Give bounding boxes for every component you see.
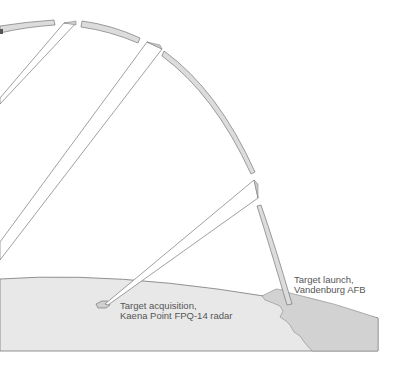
label-target-launch-line2: Vandenburg AFB	[294, 285, 366, 295]
trajectory-segment-2	[81, 21, 140, 43]
label-target-acquisition-line2: Kaena Point FPQ-14 radar	[120, 311, 232, 321]
trajectory-segment-3	[162, 51, 255, 174]
radar-beam-left	[0, 23, 76, 104]
label-target-acquisition: Target acquisition, Kaena Point FPQ-14 r…	[120, 301, 232, 321]
trajectory-marker	[0, 29, 3, 34]
trajectory-segment-1	[0, 20, 55, 33]
label-target-launch: Target launch, Vandenburg AFB	[294, 275, 366, 295]
